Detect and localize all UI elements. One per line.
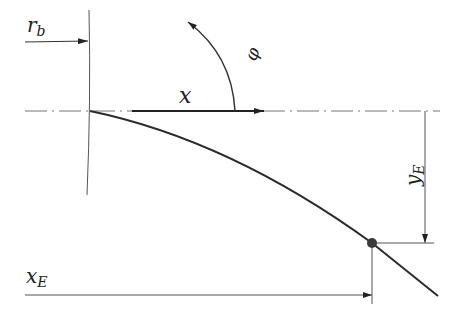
label-rb: rb: [27, 13, 46, 39]
label-yE: yE: [401, 164, 427, 187]
phi-rotation-arc: [188, 22, 235, 111]
label-phi: φ: [240, 44, 264, 63]
label-x: x: [179, 83, 192, 108]
end-point-E: [367, 238, 377, 248]
base-circle-arc: [87, 10, 90, 195]
label-xE: xE: [26, 264, 48, 290]
rb-arrow: [25, 41, 88, 42]
involute-curve: [90, 111, 438, 296]
diagram-canvas: rb x φ yE xE: [0, 0, 461, 310]
